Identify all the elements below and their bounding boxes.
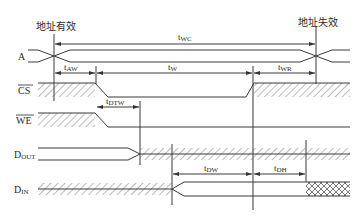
twc-label: tWC	[178, 32, 192, 43]
address-valid-label: 地址有效	[36, 20, 76, 32]
signal-label-din: DIN	[14, 184, 29, 196]
tw-label: tW	[168, 62, 178, 73]
signal-label-we: WE	[16, 115, 32, 126]
tdh-label: tDH	[274, 163, 287, 174]
signal-label-dout: DOUT	[14, 149, 36, 161]
tdtw-label: tDTW	[106, 96, 125, 107]
signal-a-waveform	[28, 50, 350, 62]
tdw-label: tDW	[204, 163, 219, 174]
signal-label-a: A	[18, 51, 26, 62]
timing-diagram: 地址有效 地址失效 A CS WE DOUT DIN tWC tAW tW tW…	[0, 0, 364, 219]
twr-label: tWR	[278, 62, 292, 73]
taw-label: tAW	[64, 62, 78, 73]
address-invalid-label: 地址失效	[298, 16, 338, 28]
signal-label-cs: CS	[18, 85, 30, 96]
